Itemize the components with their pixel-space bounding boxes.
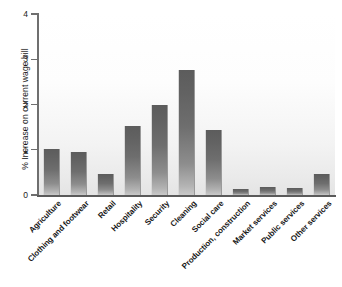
x-axis-label: Cleaning xyxy=(168,199,198,229)
bar xyxy=(286,188,303,195)
x-axis-label: Retail xyxy=(96,199,117,220)
x-axis-label: Hospitality xyxy=(109,199,144,234)
x-axis-label: Market services xyxy=(231,199,279,247)
x-axis-label: Clothing and footwear xyxy=(26,199,91,264)
y-tick-label: 3 xyxy=(0,54,28,64)
y-tick-label: 0 xyxy=(0,190,28,200)
bar xyxy=(205,130,222,195)
x-axis-line xyxy=(37,195,336,197)
bar xyxy=(151,105,168,196)
x-axis-label: Social care xyxy=(190,199,225,234)
y-tick-label: 1 xyxy=(0,145,28,155)
bar-chart-figure: % Increase on current wage bill 01234 Ag… xyxy=(0,0,342,287)
bar xyxy=(97,174,114,195)
y-tick-mark xyxy=(31,13,37,14)
bar xyxy=(313,174,330,195)
bar xyxy=(124,126,141,195)
bar-series xyxy=(38,14,335,195)
x-axis-label: Other services xyxy=(288,199,333,244)
bar xyxy=(70,152,87,195)
bar xyxy=(178,70,195,195)
bar xyxy=(259,187,276,195)
bar xyxy=(43,149,60,195)
y-tick-mark xyxy=(31,104,37,105)
y-tick-mark xyxy=(31,59,37,60)
y-tick-label: 4 xyxy=(0,9,28,19)
y-tick-mark xyxy=(31,194,37,195)
x-axis-label: Agriculture xyxy=(27,199,63,235)
x-axis-label: Production, construction xyxy=(180,199,252,271)
figure-caption xyxy=(4,276,334,284)
bar xyxy=(232,189,249,195)
y-tick-mark xyxy=(31,149,37,150)
x-axis-label: Security xyxy=(143,199,171,227)
x-axis-label: Public services xyxy=(259,199,306,246)
y-tick-label: 2 xyxy=(0,100,28,110)
